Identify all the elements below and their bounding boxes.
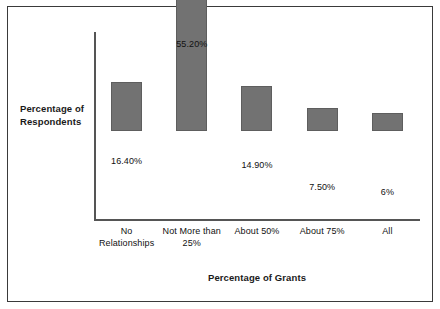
plot-area: Percentage of Respondents Percentage of … (0, 0, 440, 309)
bar-category-label-line: Not More than (154, 226, 229, 238)
bar-group: 14.90%About 50% (224, 0, 289, 220)
bar-group: 55.20%Not More than25% (159, 0, 224, 220)
bar-category-label-line: Relationships (89, 238, 164, 250)
bar-category-label-line: All (350, 226, 425, 238)
bar-category-label: Not More than25% (154, 226, 229, 249)
bar-category-label: All (350, 226, 425, 238)
bar-rect[interactable] (307, 108, 338, 131)
bar-rect[interactable] (241, 86, 272, 131)
bar-value-label: 14.90% (224, 160, 289, 170)
bar-group: 16.40%NoRelationships (94, 0, 159, 220)
bar-category-label-line: 25% (154, 238, 229, 250)
bar-category-label-line: About 75% (285, 226, 360, 238)
bar-value-label: 7.50% (290, 182, 355, 192)
bar-rect[interactable] (372, 113, 403, 131)
bar-category-label: About 75% (285, 226, 360, 238)
bar-rect[interactable] (176, 0, 207, 131)
bar-rect[interactable] (111, 82, 142, 131)
bar-group: 6%All (355, 0, 420, 220)
bar-category-label-line: No (89, 226, 164, 238)
bar-chart-figure: Percentage of Respondents Percentage of … (0, 0, 440, 309)
bar-value-label: 6% (355, 187, 420, 197)
bars-layer: 16.40%NoRelationships55.20%Not More than… (94, 0, 420, 309)
y-axis-title: Percentage of Respondents (20, 103, 94, 128)
bar-category-label-line: About 50% (219, 226, 294, 238)
bar-value-label: 55.20% (159, 39, 224, 49)
bar-category-label: NoRelationships (89, 226, 164, 249)
bar-category-label: About 50% (219, 226, 294, 238)
bar-value-label: 16.40% (94, 156, 159, 166)
bar-group: 7.50%About 75% (290, 0, 355, 220)
